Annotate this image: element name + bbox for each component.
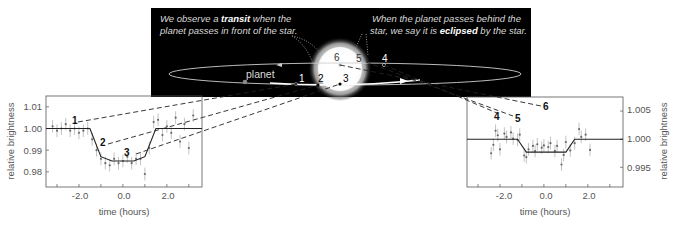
data-point bbox=[183, 123, 185, 125]
eclipse-xtick-1: -2.0 bbox=[496, 190, 512, 201]
transit-ytick-4: 0.98 bbox=[24, 166, 43, 177]
position-1-label: 1 bbox=[299, 73, 305, 84]
position-4-label: 4 bbox=[382, 53, 388, 64]
transit-annotation-3: 3 bbox=[124, 147, 130, 158]
data-point bbox=[565, 141, 567, 143]
data-point bbox=[560, 163, 562, 165]
data-point bbox=[56, 130, 58, 132]
data-point bbox=[532, 145, 534, 147]
data-point bbox=[523, 154, 525, 156]
data-point bbox=[175, 117, 177, 119]
data-point bbox=[95, 149, 97, 151]
data-point bbox=[492, 144, 494, 146]
data-point bbox=[51, 125, 53, 127]
data-point bbox=[556, 145, 558, 147]
data-point bbox=[505, 136, 507, 138]
data-point bbox=[144, 173, 146, 175]
data-point bbox=[497, 134, 499, 136]
data-point bbox=[549, 142, 551, 144]
transit-plot-frame bbox=[46, 96, 202, 187]
data-point bbox=[170, 132, 172, 134]
data-point bbox=[574, 142, 576, 144]
data-point bbox=[69, 130, 71, 132]
eclipse-annotation-6: 6 bbox=[543, 101, 549, 112]
transit-caption-line1: We observe a transit when the bbox=[160, 13, 291, 24]
data-point bbox=[157, 119, 159, 121]
data-point bbox=[536, 143, 538, 145]
data-point bbox=[65, 123, 67, 125]
eclipse-xtick-2: 0.0 bbox=[539, 190, 552, 201]
transit-eclipse-diagram: We observe a transit when the planet pas… bbox=[0, 0, 675, 226]
data-point bbox=[563, 154, 565, 156]
data-point bbox=[131, 162, 133, 164]
data-point bbox=[109, 164, 111, 166]
data-point bbox=[100, 158, 102, 160]
star-label: star bbox=[331, 107, 350, 119]
position-3-label: 3 bbox=[343, 73, 349, 84]
transit-annotation-2: 2 bbox=[100, 137, 106, 148]
data-point bbox=[510, 131, 512, 133]
transit-ytick-3: 0.99 bbox=[24, 145, 43, 156]
eclipse-plot: 1.005 1.000 0.995 -2.0 0.0 2.0 time (hou… bbox=[467, 97, 669, 217]
data-point bbox=[166, 125, 168, 127]
transit-plot: 1.01 1.00 0.99 0.98 -2.0 0.0 2.0 time (h… bbox=[5, 96, 202, 217]
data-point bbox=[503, 132, 505, 134]
eclipse-annotation-5: 5 bbox=[515, 113, 521, 124]
position-2-label: 2 bbox=[318, 73, 324, 84]
position-3-marker bbox=[338, 82, 341, 85]
transit-annotation-1: 1 bbox=[72, 115, 78, 126]
eclipse-ylabel: relative brightness bbox=[658, 102, 669, 179]
eclipse-caption-line1: When the planet passes behind the bbox=[372, 13, 521, 24]
eclipse-plot-content bbox=[467, 111, 623, 187]
data-point bbox=[494, 130, 496, 132]
data-point bbox=[547, 146, 549, 148]
data-point bbox=[179, 140, 181, 142]
eclipse-xlabel: time (hours) bbox=[520, 206, 571, 217]
eclipse-ytick-1: 1.005 bbox=[627, 104, 651, 115]
data-point bbox=[569, 149, 571, 151]
position-5-label: 5 bbox=[356, 53, 362, 64]
planet-label: planet bbox=[246, 68, 275, 80]
data-point bbox=[104, 162, 106, 164]
data-point bbox=[585, 134, 587, 136]
data-point bbox=[153, 121, 155, 123]
data-point bbox=[519, 134, 521, 136]
model-curve bbox=[467, 139, 623, 152]
data-point bbox=[589, 149, 591, 151]
data-point bbox=[499, 148, 501, 150]
data-point bbox=[541, 147, 543, 149]
transit-ylabel: relative brightness bbox=[5, 102, 16, 179]
data-point bbox=[161, 134, 163, 136]
data-point bbox=[578, 128, 580, 130]
data-point bbox=[82, 130, 84, 132]
transit-xtick-2: 0.0 bbox=[117, 190, 130, 201]
data-point bbox=[490, 152, 492, 154]
transit-xlabel: time (hours) bbox=[99, 206, 150, 217]
eclipse-xtick-3: 2.0 bbox=[582, 190, 595, 201]
eclipse-annotation-4: 4 bbox=[494, 111, 500, 122]
eclipse-ytick-3: 0.995 bbox=[627, 162, 651, 173]
eclipse-ytick-2: 1.000 bbox=[627, 133, 651, 144]
data-point bbox=[91, 138, 93, 140]
transit-xtick-1: -2.0 bbox=[72, 190, 88, 201]
data-point bbox=[525, 156, 527, 158]
eclipse-caption-line2: star, we say it is eclipsed by the star. bbox=[370, 25, 527, 36]
transit-xtick-3: 2.0 bbox=[161, 190, 174, 201]
planet-dot bbox=[243, 80, 248, 85]
orbit-panel: We observe a transit when the planet pas… bbox=[151, 8, 531, 119]
data-point bbox=[192, 114, 194, 116]
transit-ytick-1: 1.01 bbox=[24, 101, 43, 112]
data-point bbox=[543, 144, 545, 146]
data-point bbox=[527, 148, 529, 150]
transit-caption-line2: planet passes in front of the star. bbox=[159, 25, 297, 36]
data-point bbox=[113, 158, 115, 160]
data-point bbox=[117, 162, 119, 164]
transit-ytick-2: 1.00 bbox=[24, 123, 43, 134]
data-point bbox=[580, 136, 582, 138]
position-6-label: 6 bbox=[334, 52, 340, 63]
data-point bbox=[188, 147, 190, 149]
data-point bbox=[78, 132, 80, 134]
